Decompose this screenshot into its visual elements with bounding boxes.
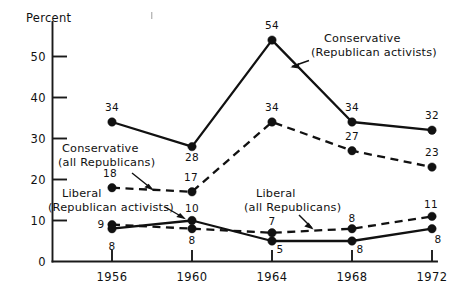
value-label: 32: [425, 109, 439, 121]
value-label: 17: [184, 171, 198, 183]
series-conservative-all-republicans: [108, 118, 436, 196]
data-point: [188, 188, 196, 196]
annotation-line-2: (Republican activists): [311, 46, 437, 59]
y-axis-title: Percent: [26, 11, 72, 25]
data-point: [268, 237, 276, 245]
data-point: [348, 147, 356, 155]
data-point: [348, 118, 356, 126]
data-point: [108, 184, 116, 192]
x-axis-ticks: [112, 250, 432, 262]
chart-container: 50 40 30 20 10 0 Percent 1956 1960 1964 …: [0, 0, 456, 291]
annotation-line-1: Conservative: [324, 32, 401, 45]
value-label: 8: [349, 212, 356, 224]
data-point: [268, 118, 276, 126]
value-label: 8: [357, 243, 364, 255]
value-label: 34: [345, 101, 359, 113]
value-label: 11: [424, 198, 438, 210]
data-point: [108, 225, 116, 233]
annotation-line-2: (all Republicans): [58, 156, 155, 169]
data-point: [428, 126, 436, 134]
value-label: 28: [185, 151, 199, 163]
data-point: [268, 36, 276, 44]
y-tick-label-0: 0: [38, 255, 46, 269]
data-point: [348, 237, 356, 245]
x-tick-label-1956: 1956: [97, 270, 128, 284]
data-point: [108, 118, 116, 126]
x-axis-tick-labels: 1956 1960 1964 1968 1972: [97, 270, 448, 284]
data-point: [428, 212, 436, 220]
annotation-line-1: Conservative: [62, 142, 139, 155]
line-chart: 50 40 30 20 10 0 Percent 1956 1960 1964 …: [0, 0, 456, 291]
value-label: 54: [265, 19, 279, 31]
x-tick-label-1964: 1964: [257, 270, 288, 284]
x-tick-label-1972: 1972: [417, 270, 448, 284]
annotation-liberal-republican-activists: Liberal (Republican activists): [48, 187, 186, 219]
value-label: 23: [425, 146, 439, 158]
y-tick-label-20: 20: [31, 173, 46, 187]
value-label: 34: [265, 101, 279, 113]
value-label: 8: [189, 234, 196, 246]
annotation-line-2: (all Republicans): [244, 201, 341, 214]
annotation-conservative-republican-activists: Conservative (Republican activists): [290, 32, 437, 69]
value-label: 10: [185, 202, 199, 214]
y-tick-label-30: 30: [31, 132, 46, 146]
value-label: 34: [105, 101, 119, 113]
scan-artifact: [151, 12, 152, 19]
value-labels-conservative-all: 18 17 34 27 23: [103, 101, 439, 183]
value-label: 7: [269, 215, 276, 227]
value-label: 8: [109, 240, 116, 252]
data-point: [348, 225, 356, 233]
data-point: [428, 163, 436, 171]
x-tick-label-1968: 1968: [337, 270, 368, 284]
value-label: 5: [277, 243, 284, 255]
x-tick-label-1960: 1960: [177, 270, 208, 284]
series-line-conservative-all: [112, 122, 432, 192]
value-label: 8: [435, 233, 442, 245]
y-axis-tick-labels: 50 40 30 20 10 0: [31, 50, 46, 269]
value-label: 27: [345, 130, 359, 142]
data-point: [268, 229, 276, 237]
annotation-conservative-all-republicans: Conservative (all Republicans): [58, 142, 155, 191]
data-point: [188, 225, 196, 233]
annotation-line-1: Liberal: [256, 187, 296, 200]
annotation-arrow-head: [304, 223, 313, 230]
data-point: [188, 216, 196, 224]
y-tick-label-50: 50: [31, 50, 46, 64]
y-tick-label-10: 10: [31, 214, 46, 228]
annotation-line-2: (Republican activists): [48, 201, 174, 214]
annotation-liberal-all-republicans: Liberal (all Republicans): [244, 187, 341, 230]
y-tick-label-40: 40: [31, 91, 46, 105]
data-point: [428, 225, 436, 233]
value-label: 9: [98, 218, 105, 230]
data-point: [188, 142, 196, 150]
annotation-line-1: Liberal: [62, 187, 102, 200]
